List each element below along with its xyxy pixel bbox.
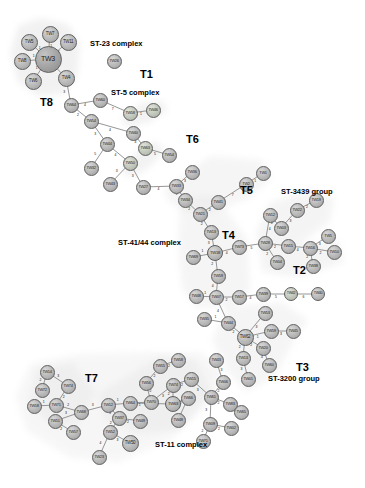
network-node[interactable]: TW32 [84,161,99,176]
node-label: TW12 [265,213,274,217]
network-node[interactable]: TW48 [189,289,204,304]
edge-weight-label: 7 [112,107,114,111]
network-node[interactable]: TW18 [207,245,223,261]
network-node[interactable]: TW44 [221,316,236,331]
network-node[interactable]: TW50 [122,435,139,452]
network-node[interactable]: TW26 [107,54,122,69]
network-node[interactable]: TW15 [281,239,296,254]
network-node[interactable]: TW1 [256,166,271,181]
node-label: TW4 [62,76,70,80]
network-node[interactable]: TW48 [171,413,186,428]
network-node[interactable]: TW72 [35,383,50,398]
network-node[interactable]: TW74 [166,378,181,393]
network-node[interactable]: TW39 [256,287,271,302]
network-node[interactable]: TW62 [237,329,254,346]
network-node[interactable]: TW63 [165,396,181,412]
network-node[interactable]: TW51 [48,414,63,429]
edge-weight-label: 3 [63,90,65,94]
network-node[interactable]: TW7 [42,26,59,43]
network-node[interactable]: TW43 [209,353,224,368]
network-node[interactable]: TW63 [138,141,153,156]
network-node[interactable]: TW22 [290,203,305,218]
network-node[interactable]: TW64 [123,396,138,411]
node-label: TW52 [105,430,114,434]
network-node[interactable]: TW58 [171,353,186,368]
edge-weight-label: 2 [67,403,69,407]
network-node[interactable]: TW16 [303,241,318,256]
network-node[interactable]: TW21 [193,207,208,222]
network-node[interactable]: TW28 [258,236,273,251]
network-node[interactable]: TW57 [66,425,81,440]
network-node[interactable]: TW17 [232,290,247,305]
network-node[interactable]: TW14 [40,365,55,380]
network-node[interactable]: TW60 [262,358,277,373]
network-node[interactable]: TW18 [27,399,42,414]
network-node[interactable]: TW54 [162,148,177,163]
network-node[interactable]: TW34 [178,193,193,208]
network-node[interactable]: TW56 [139,376,154,391]
network-node[interactable]: TW13 [204,225,219,240]
network-node[interactable]: TW03 [274,221,289,236]
network-node[interactable]: TW49 [133,414,148,429]
network-node[interactable]: TW74 [61,379,76,394]
network-node[interactable]: TW37 [112,411,127,426]
network-node[interactable]: TW02 [224,421,239,436]
network-node[interactable]: TW64 [64,98,79,113]
network-node[interactable]: TW27 [136,180,151,195]
network-node[interactable]: TW70 [144,395,159,410]
network-node[interactable]: TW35 [197,312,212,327]
edge-weight-label: 2 [168,392,170,396]
network-node[interactable]: TW11 [60,34,77,51]
network-node[interactable]: TW38 [306,259,321,274]
network-node[interactable]: TW66 [181,391,196,406]
network-node[interactable]: TW54 [84,114,99,129]
network-node[interactable]: TW04 [270,255,285,270]
node-label: TW26 [109,59,118,63]
network-node[interactable]: TW36 [185,165,200,180]
network-node[interactable]: TW68 [74,405,89,420]
network-node[interactable]: TW40 [311,287,325,301]
network-node[interactable]: TW33 [169,179,184,194]
network-node[interactable]: TW46 [146,103,161,118]
network-node[interactable]: TW23 [92,450,107,465]
network-node[interactable]: TW15 [184,372,199,387]
network-node[interactable]: TW73 [232,240,247,255]
network-node[interactable]: TW59 [264,324,279,339]
network-node[interactable]: TW52 [103,425,118,440]
network-node[interactable]: TW44 [100,137,115,152]
node-label: TW48 [173,418,182,422]
network-node[interactable]: TW13 [236,351,251,366]
network-node[interactable]: TW43 [103,177,118,192]
network-node[interactable]: TW45 [286,324,301,339]
network-node[interactable]: TW41 [211,195,226,210]
network-node[interactable]: TW42 [284,287,298,301]
network-node[interactable]: TW65 [234,405,249,420]
network-node[interactable]: TW59 [211,269,226,284]
network-node[interactable]: TW09 [203,417,218,432]
network-node[interactable]: TW12 [101,398,116,413]
node-label: TW54 [164,153,173,157]
network-node[interactable]: TW40 [126,126,141,141]
network-node[interactable]: TW8 [14,53,31,70]
network-node[interactable]: TW50 [123,156,138,171]
edge-weight-label: 1 [215,315,217,319]
network-node[interactable]: TW3 [35,46,62,73]
network-node[interactable]: TW4 [58,70,75,87]
network-node[interactable]: TW53 [258,306,273,321]
network-node[interactable]: TW07 [209,290,224,305]
network-node[interactable]: TW06 [216,375,231,390]
network-node[interactable]: TW5 [321,229,336,244]
network-node[interactable]: TW60 [93,93,108,108]
network-node[interactable]: TW20 [256,341,271,356]
network-node[interactable]: TW71 [49,398,64,413]
network-node[interactable]: TW10 [327,245,342,260]
network-node[interactable]: TW12 [263,208,278,223]
network-node[interactable]: TW6 [25,73,42,90]
network-node[interactable]: TW58 [123,106,138,121]
network-node[interactable]: TW5 [21,34,38,51]
network-node[interactable]: TW61 [204,390,219,405]
network-node[interactable]: TW01 [241,372,256,387]
network-node[interactable]: TW69 [186,250,201,265]
edge-weight-label: 5 [154,152,156,156]
network-node[interactable]: TW55 [153,359,168,374]
